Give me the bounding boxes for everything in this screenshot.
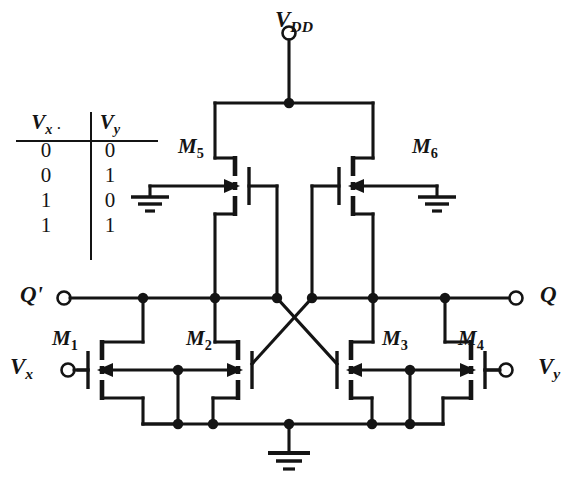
table-row: 0 1 xyxy=(14,163,164,188)
truth-table-horizontal-rule xyxy=(16,140,158,142)
q-bar-label: Q' xyxy=(20,283,43,306)
q-rail-net xyxy=(58,292,523,305)
m3-arrow xyxy=(346,363,362,377)
truth-table-body: 0 0 0 1 1 0 1 1 xyxy=(14,138,164,238)
vdd-net xyxy=(215,27,373,159)
source-rail-dot-3 xyxy=(367,419,377,429)
m3-label: M3 xyxy=(382,328,408,352)
source-rail-dot-1 xyxy=(173,419,183,429)
m1-label: M1 xyxy=(52,328,78,352)
m2-arrow xyxy=(227,363,243,377)
m5-label: M5 xyxy=(178,136,204,160)
ground-right xyxy=(418,186,456,211)
truth-table-header: Vx . Vy xyxy=(14,110,164,138)
truth-table-header-vy: Vy xyxy=(78,110,142,138)
m4-arrow xyxy=(460,363,476,377)
cell-vx: 0 xyxy=(14,163,78,188)
truth-table-vertical-rule xyxy=(90,112,92,260)
m6-label: M6 xyxy=(412,136,438,160)
m1-arrow xyxy=(97,363,113,377)
transistor-m6[interactable] xyxy=(312,156,437,298)
cell-vy: 1 xyxy=(78,163,142,188)
vx-label: Vx xyxy=(10,355,33,382)
cross-couple-x xyxy=(252,298,337,364)
transistor-m5[interactable] xyxy=(150,156,277,298)
q-terminal[interactable] xyxy=(510,292,523,305)
vy-label: Vy xyxy=(538,355,560,382)
circuit-svg xyxy=(0,0,574,502)
cross-wire-left-to-m3-gate xyxy=(277,298,337,364)
source-rail-dot-2 xyxy=(208,419,218,429)
source-rail-net xyxy=(143,419,443,469)
transistor-m2[interactable] xyxy=(178,298,252,424)
cross-wire-right-to-m2-gate xyxy=(252,298,312,364)
m2-label: M2 xyxy=(186,328,212,352)
table-row: 1 1 xyxy=(14,213,164,238)
m5-arrow xyxy=(224,179,240,193)
truth-table: Vx . Vy 0 0 0 1 1 0 1 1 xyxy=(14,110,164,238)
transistor-m1[interactable] xyxy=(78,298,178,424)
vdd-label: VDD xyxy=(275,8,313,35)
cell-vy: 0 xyxy=(78,188,142,213)
input-net xyxy=(62,364,513,425)
m6-arrow xyxy=(348,179,364,193)
truth-table-header-vx: Vx . xyxy=(14,110,78,138)
cell-vy: 1 xyxy=(78,213,142,238)
q-label: Q xyxy=(540,283,557,306)
transistor-m3[interactable] xyxy=(337,298,410,424)
circuit-diagram: Vx . Vy 0 0 0 1 1 0 1 1 VDD Q' Q xyxy=(0,0,574,502)
m4-label: M4 xyxy=(458,328,484,352)
cell-vx: 1 xyxy=(14,188,78,213)
source-rail-dot-4 xyxy=(405,419,415,429)
transistor-m4[interactable] xyxy=(410,298,500,424)
cell-vx: 1 xyxy=(14,213,78,238)
vdd-junction-dot xyxy=(284,98,294,108)
table-row: 1 0 xyxy=(14,188,164,213)
